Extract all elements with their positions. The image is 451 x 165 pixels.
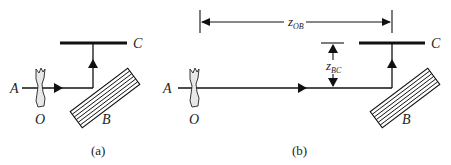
dim-arrow-left-icon [201,18,210,26]
dim-arrow-down-icon [328,78,338,87]
caption-a: (a) [91,143,105,158]
caption-b: (b) [292,143,307,158]
beam-up-arrow-icon-b [387,59,397,68]
beam-up-arrow-icon-a [88,59,98,68]
beam-arrow-icon-b [298,83,307,93]
label-b-grating: B [402,112,411,127]
panel-b: zOB zBC A O B C [162,10,441,158]
optical-setup-figure: A O B C (a) zOB zBC [0,0,451,165]
label-a-source: A [9,81,19,96]
label-b-object: O [189,112,199,127]
label-z-ob: zOB [287,14,304,31]
beam-arrow-icon-a [54,83,63,93]
label-a-object: O [35,112,45,127]
panel-a: A O B C (a) [9,36,143,158]
label-b-source: A [162,81,172,96]
label-b-screen: C [431,36,441,51]
dim-arrow-right-icon [382,18,391,26]
label-a-grating: B [102,112,111,127]
dim-arrow-up-icon [328,44,338,53]
label-a-screen: C [133,36,143,51]
